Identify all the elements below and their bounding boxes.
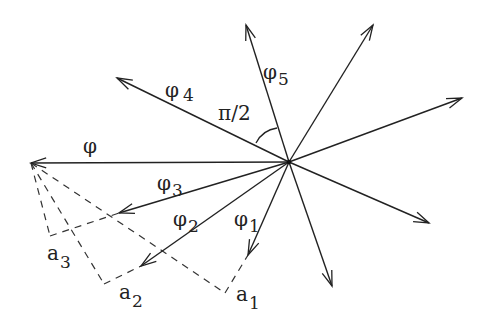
- vector-v7: [289, 98, 462, 162]
- label-phi1: φ1: [234, 207, 260, 236]
- vector-phi5: [246, 25, 289, 162]
- label-a3: a3: [47, 241, 71, 272]
- label-a1: a1: [236, 282, 260, 313]
- label-phi3: φ3: [157, 171, 183, 200]
- label-right-angle: π/2: [218, 101, 251, 125]
- right-angle-arc: [256, 128, 277, 143]
- label-phi5: φ5: [263, 60, 289, 89]
- label-phi: φ: [83, 134, 97, 158]
- vector-v8: [289, 162, 429, 223]
- vector-v9: [289, 162, 332, 286]
- label-a2: a2: [119, 280, 143, 311]
- vector-v6: [289, 25, 373, 162]
- projection-a2: [31, 163, 141, 284]
- vector-phi4: [117, 78, 289, 162]
- vector-phi: [31, 158, 289, 168]
- projection-a1: [31, 163, 248, 293]
- arrowhead-icon: [117, 78, 133, 89]
- vector-phi3: [119, 162, 289, 213]
- origin-point: [287, 160, 291, 164]
- label-phi2: φ2: [173, 207, 199, 236]
- projection-a3: [31, 163, 119, 236]
- diagram-labels: φ φ4 φ5 φ3 φ2 φ1 a3 a2 a1 π/2: [47, 60, 289, 313]
- label-phi4: φ4: [165, 78, 194, 105]
- vector-projection-diagram: φ φ4 φ5 φ3 φ2 φ1 a3 a2 a1 π/2: [0, 0, 482, 332]
- arrowhead-icon: [361, 25, 373, 41]
- projection-dashed-lines: [31, 163, 248, 293]
